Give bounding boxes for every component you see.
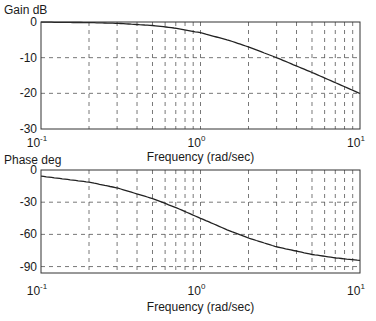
y-tick-label: 0 xyxy=(30,15,37,29)
gain-axes: 0-10-20-3010-1100101Gain dBFrequency (ra… xyxy=(4,3,365,164)
y-tick-label: -10 xyxy=(20,51,38,65)
x-tick-label: 100 xyxy=(188,134,206,150)
bode-plot: 0-10-20-3010-1100101Gain dBFrequency (ra… xyxy=(0,0,376,321)
y-tick-label: -30 xyxy=(20,195,38,209)
y-tick-label: -90 xyxy=(20,260,38,274)
x-axis-label: Frequency (rad/sec) xyxy=(147,300,254,314)
x-tick-label: 10-1 xyxy=(27,134,48,150)
x-tick-label: 101 xyxy=(347,282,365,298)
x-tick-label: 10-1 xyxy=(27,282,48,298)
x-axis-label: Frequency (rad/sec) xyxy=(147,150,254,164)
y-tick-label: -20 xyxy=(20,86,38,100)
phase-axes: 0-30-60-9010-1100101Phase degFrequency (… xyxy=(4,153,365,314)
axis-title: Gain dB xyxy=(4,3,47,17)
x-tick-label: 101 xyxy=(347,134,365,150)
y-tick-label: -60 xyxy=(20,227,38,241)
axis-title: Phase deg xyxy=(4,153,61,167)
y-tick-label: -30 xyxy=(20,122,38,136)
x-tick-label: 100 xyxy=(188,282,206,298)
